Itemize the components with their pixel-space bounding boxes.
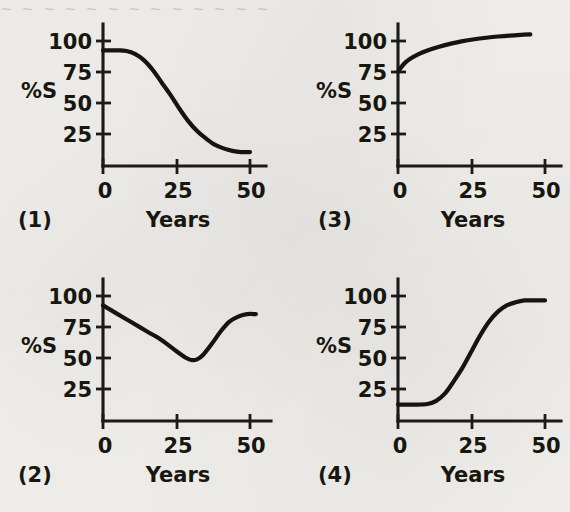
chart-panel-2: 100 75 50 25 0 25 50 %S Years (2) (0, 256, 285, 512)
x-tick-label-50-3: 50 (531, 179, 560, 203)
y-tick-label-100-2: 100 (48, 285, 92, 309)
y-axis-title-3: %S (316, 79, 352, 103)
chart-svg-4: 100 75 50 25 0 25 50 %S Years (4) (285, 256, 570, 512)
y-tick-label-25-2: 25 (63, 378, 92, 402)
x-tick-label-0-4: 0 (393, 434, 408, 458)
x-tick-label-25-3: 25 (458, 179, 487, 203)
axes-3 (391, 24, 561, 174)
panel-id-2: (2) (18, 463, 52, 487)
y-tick-label-25-3: 25 (358, 123, 387, 147)
y-tick-label-100-3: 100 (343, 30, 387, 54)
y-axis-title-2: %S (21, 334, 57, 358)
survivorship-curve-1 (103, 50, 250, 152)
y-tick-label-50-4: 50 (358, 347, 387, 371)
survivorship-curve-2 (103, 305, 256, 360)
x-tick-label-50-4: 50 (531, 434, 560, 458)
x-axis-title-1: Years (145, 208, 211, 232)
survivorship-curve-3 (398, 34, 530, 71)
x-tick-label-25-1: 25 (163, 179, 192, 203)
x-tick-label-0-2: 0 (98, 434, 113, 458)
panel-id-4: (4) (318, 463, 352, 487)
x-axis-title-3: Years (440, 208, 506, 232)
y-tick-label-50-2: 50 (63, 347, 92, 371)
y-tick-label-100-4: 100 (343, 285, 387, 309)
chart-panel-1: 100 75 50 25 0 25 50 %S Years (1) (0, 0, 285, 256)
x-tick-label-0-3: 0 (393, 179, 408, 203)
y-tick-label-100-1: 100 (48, 30, 92, 54)
survivorship-curve-4 (398, 300, 545, 404)
y-tick-label-50-3: 50 (358, 92, 387, 116)
y-tick-label-75-2: 75 (63, 316, 92, 340)
x-tick-label-25-4: 25 (458, 434, 487, 458)
chart-panel-4: 100 75 50 25 0 25 50 %S Years (4) (285, 256, 570, 512)
y-tick-label-75-1: 75 (63, 61, 92, 85)
chart-svg-2: 100 75 50 25 0 25 50 %S Years (2) (0, 256, 285, 512)
x-axis-title-2: Years (145, 463, 211, 487)
y-tick-label-50-1: 50 (63, 92, 92, 116)
y-tick-label-75-3: 75 (358, 61, 387, 85)
x-axis-title-4: Years (440, 463, 506, 487)
chart-svg-3: 100 75 50 25 0 25 50 %S Years (3) (285, 0, 570, 256)
y-axis-title-1: %S (21, 79, 57, 103)
y-tick-label-75-4: 75 (358, 316, 387, 340)
chart-panel-3: 100 75 50 25 0 25 50 %S Years (3) (285, 0, 570, 256)
y-axis-title-4: %S (316, 334, 352, 358)
panel-id-3: (3) (318, 208, 352, 232)
y-tick-label-25-4: 25 (358, 378, 387, 402)
x-tick-label-25-2: 25 (163, 434, 192, 458)
x-tick-label-0-1: 0 (98, 179, 113, 203)
survivorship-chart-grid: 100 75 50 25 0 25 50 %S Years (1) (0, 0, 570, 512)
chart-svg-1: 100 75 50 25 0 25 50 %S Years (1) (0, 0, 285, 256)
x-tick-label-50-2: 50 (236, 434, 265, 458)
panel-id-1: (1) (18, 208, 52, 232)
y-tick-label-25-1: 25 (63, 123, 92, 147)
x-tick-label-50-1: 50 (236, 179, 265, 203)
